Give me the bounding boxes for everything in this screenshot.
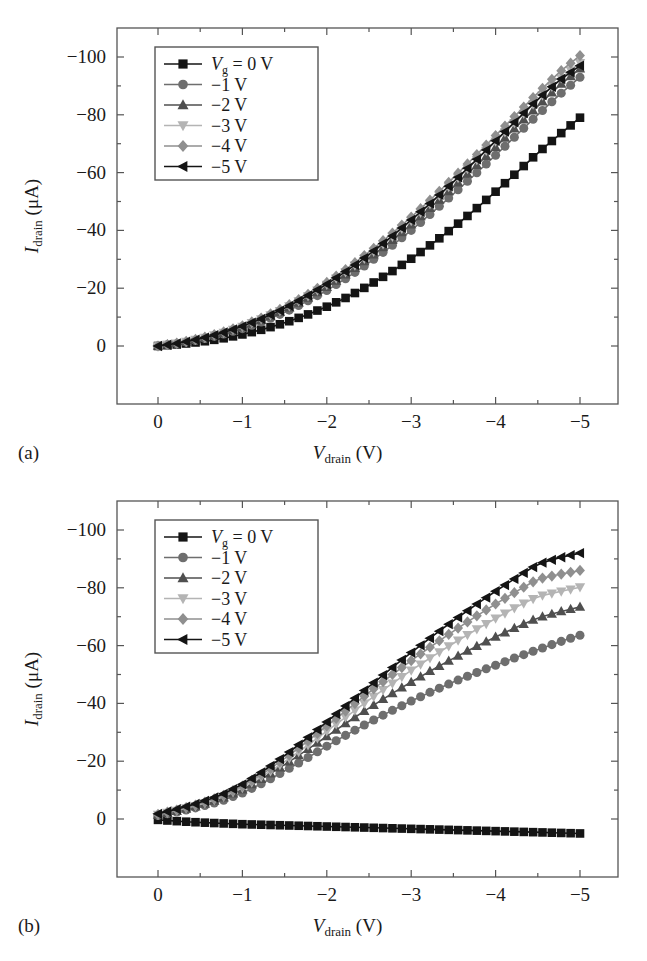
data-marker	[557, 129, 566, 138]
data-marker	[238, 820, 247, 829]
data-marker	[453, 637, 463, 646]
data-marker	[538, 828, 547, 837]
data-marker	[509, 604, 519, 613]
data-marker	[397, 673, 407, 682]
x-tick-label: −1	[232, 884, 252, 905]
data-marker	[481, 620, 491, 629]
y-tick-label: −40	[76, 692, 106, 713]
data-marker	[332, 298, 341, 307]
data-marker	[178, 532, 187, 541]
y-tick-label: −100	[67, 519, 106, 540]
data-marker	[341, 731, 350, 740]
data-marker	[379, 711, 388, 720]
data-marker	[519, 828, 528, 837]
data-marker	[426, 241, 435, 250]
data-marker	[351, 823, 360, 832]
data-marker	[416, 692, 425, 701]
data-marker	[547, 97, 556, 106]
data-marker	[529, 647, 538, 656]
data-marker	[528, 595, 538, 604]
data-marker	[351, 289, 360, 298]
data-marker	[425, 688, 434, 697]
x-tick-label: −3	[401, 884, 421, 905]
data-marker	[266, 821, 275, 830]
data-marker	[482, 159, 491, 168]
data-marker	[388, 267, 397, 276]
panel-label: (a)	[18, 442, 39, 464]
data-marker	[528, 576, 538, 587]
data-marker	[482, 196, 491, 205]
data-marker	[191, 818, 200, 827]
data-marker	[473, 204, 482, 213]
y-tick-label: −20	[76, 277, 106, 298]
data-marker	[454, 676, 463, 685]
data-marker	[519, 582, 529, 593]
data-marker	[425, 642, 435, 653]
data-marker	[556, 568, 566, 579]
data-marker	[500, 627, 510, 636]
data-marker	[360, 284, 369, 293]
data-marker	[565, 550, 575, 560]
data-marker	[378, 686, 388, 695]
data-marker	[529, 153, 538, 162]
data-marker	[379, 273, 388, 282]
data-marker	[453, 622, 463, 633]
data-marker	[332, 736, 341, 745]
data-marker	[538, 145, 547, 154]
data-marker	[510, 133, 519, 142]
data-marker	[444, 656, 454, 665]
data-marker	[472, 641, 482, 650]
data-marker	[574, 548, 584, 558]
data-marker	[285, 821, 294, 830]
data-marker	[500, 657, 509, 666]
data-marker	[557, 89, 566, 98]
data-marker	[538, 643, 547, 652]
data-marker	[519, 600, 529, 609]
data-marker	[500, 609, 510, 618]
data-marker	[519, 162, 528, 171]
data-marker	[257, 820, 266, 829]
data-marker	[463, 616, 473, 627]
data-marker	[435, 234, 444, 243]
data-marker	[491, 151, 500, 160]
data-marker	[360, 721, 369, 730]
data-marker	[538, 106, 547, 115]
data-marker	[491, 827, 500, 836]
data-marker	[415, 660, 425, 669]
data-marker	[332, 822, 341, 831]
data-marker	[341, 294, 350, 303]
data-marker	[434, 635, 444, 646]
y-tick-label: −60	[76, 635, 106, 656]
y-tick-label: −80	[76, 577, 106, 598]
data-marker	[463, 672, 472, 681]
data-marker	[369, 278, 378, 287]
legend-label: −3 V	[211, 116, 247, 136]
data-marker	[509, 587, 519, 598]
data-marker	[462, 646, 472, 655]
data-marker	[575, 631, 584, 640]
data-marker	[178, 80, 188, 90]
data-marker	[294, 821, 303, 830]
data-marker	[323, 822, 332, 831]
data-marker	[247, 820, 256, 829]
data-marker	[294, 758, 303, 767]
y-tick-label: −60	[76, 162, 106, 183]
data-marker	[575, 601, 585, 610]
data-marker	[285, 317, 294, 326]
data-marker	[201, 818, 210, 827]
legend-label: −2 V	[211, 568, 247, 588]
x-tick-label: −2	[317, 884, 337, 905]
data-marker	[387, 688, 397, 697]
panel-label: (b)	[18, 915, 40, 937]
data-marker	[425, 666, 435, 675]
data-marker	[416, 248, 425, 257]
data-marker	[566, 121, 575, 130]
data-marker	[178, 59, 187, 68]
legend-label: −3 V	[211, 589, 247, 609]
x-tick-label: −2	[317, 411, 337, 432]
data-marker	[566, 634, 575, 643]
data-series	[153, 631, 584, 820]
data-marker	[229, 820, 238, 829]
legend-label: −5 V	[211, 630, 247, 650]
data-marker	[472, 610, 482, 621]
